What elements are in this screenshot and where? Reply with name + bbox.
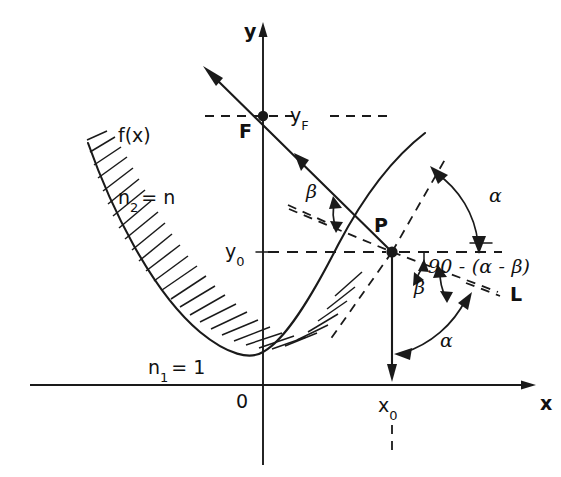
focus-point-marker [258,111,268,121]
x-zero-subscript: 0 [389,408,397,423]
normal-line-label: L [510,285,522,304]
curve-label: f(x) [118,126,151,145]
y-focus-base: y [290,104,301,126]
y-zero-subscript: 0 [236,254,244,269]
alpha-upper-arc [430,166,492,254]
alpha-lower-arc [394,292,472,360]
x-zero-base: x [378,394,389,416]
beta-upper-reference-line [288,205,330,224]
x-axis [30,381,536,390]
index-upper-subscript: 2 [130,200,138,215]
index-upper-label: n2= n [118,188,175,211]
index-lower-value: = 1 [171,356,205,378]
alpha-upper-label: α [489,186,502,205]
reflection-point-label: P [374,216,388,235]
index-lower-subscript: 1 [160,370,168,385]
index-lower-label: n1= 1 [148,358,205,381]
angle-expression-label: 90 - (α - β) [428,257,530,276]
y-focus-subscript: F [301,118,308,133]
y-axis-label: y [244,22,256,41]
y-focus-label: yF [290,106,309,129]
beta-upper-label: β [306,182,317,201]
x-axis-label: x [540,394,552,413]
beta-lower-label: β [414,278,425,297]
x-zero-label: x0 [378,396,398,419]
y-axis [259,22,268,465]
index-lower-base: n [148,356,160,378]
figure-canvas: y x 0 f(x) F P yF y0 x0 n2= n n1= 1 β β … [0,0,561,477]
origin-label: 0 [236,392,248,411]
reflected-ray-line [203,66,392,252]
vertical-drop-line [387,252,397,382]
index-upper-value: = n [141,186,175,208]
y-zero-label: y0 [225,242,245,265]
alpha-lower-label: α [440,331,453,350]
y-zero-base: y [225,240,236,262]
focus-point-label: F [239,122,252,141]
diagram-svg [0,0,561,477]
index-upper-base: n [118,186,130,208]
